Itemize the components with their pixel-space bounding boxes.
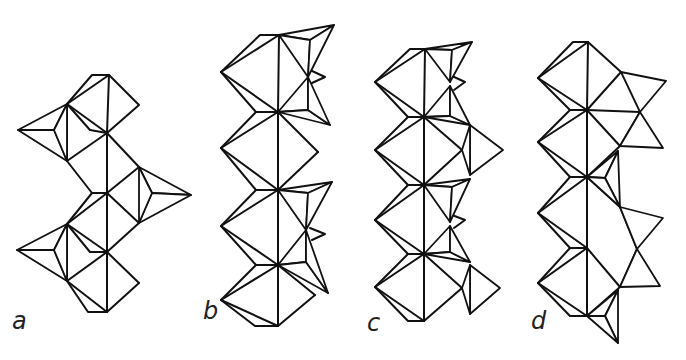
tetrahedron-c-1 [425,42,472,82]
panel-b [221,25,334,326]
panel-label-a: a [12,309,27,333]
tetrahedron-c-3 [462,125,503,175]
tetrahedron-c-6 [462,265,500,314]
tetrahedron-a-3 [17,224,67,281]
panel-label-c: c [367,311,380,335]
panel-c [375,42,503,321]
polyhedra-figure [0,0,686,360]
panel-a [17,75,191,312]
panel-label-b: b [203,299,218,323]
figure-caption-cutoff [10,352,680,360]
tetrahedron-d-5 [620,249,660,287]
tetrahedron-d-3 [587,151,620,207]
tetrahedron-b-3 [278,182,332,230]
panel-d [538,42,666,343]
tetrahedron-d-4 [620,207,663,249]
tetrahedron-c-4 [424,179,470,222]
tetrahedron-b-2 [278,77,330,125]
tetrahedron-a-1 [18,104,67,161]
tetrahedron-b-4 [278,230,328,293]
octahedra-chain-a [67,75,139,312]
tetrahedron-d-2 [620,112,663,148]
tetrahedron-a-2 [139,167,191,223]
tetrahedron-b-1 [279,25,334,77]
tetrahedron-c-2 [424,86,470,125]
tetrahedron-d-1 [621,72,666,112]
tetrahedron-c-5 [424,226,470,262]
tetrahedron-d-6 [587,290,618,343]
panel-label-d: d [531,309,546,333]
